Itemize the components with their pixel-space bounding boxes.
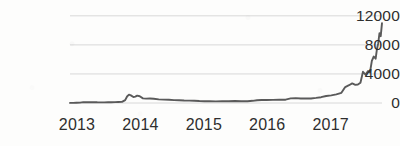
gridlines bbox=[70, 16, 382, 103]
bitcoin-price-chart: 04000800012000 20132014201520162017 bbox=[0, 0, 400, 146]
x-tick-label-2015: 2015 bbox=[176, 117, 232, 133]
y-tick-label-8000: 8000 bbox=[338, 37, 400, 53]
y-tick-label-0: 0 bbox=[338, 95, 400, 111]
x-tick-label-2016: 2016 bbox=[239, 117, 295, 133]
x-tick-label-2013: 2013 bbox=[49, 117, 105, 133]
x-tick-label-2017: 2017 bbox=[303, 117, 359, 133]
y-tick-label-4000: 4000 bbox=[338, 66, 400, 82]
price-line bbox=[70, 23, 382, 103]
x-tick-label-2014: 2014 bbox=[112, 117, 168, 133]
y-tick-label-12000: 12000 bbox=[338, 8, 400, 24]
